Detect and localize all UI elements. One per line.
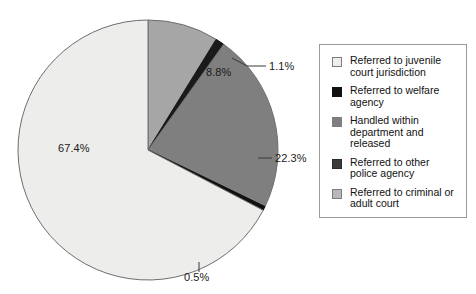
legend-item-label: Referred to juvenile court jurisdiction <box>350 55 458 78</box>
chart-legend: Referred to juvenile court jurisdiction … <box>319 44 467 218</box>
pie-label-67-4: 67.4% <box>58 142 90 154</box>
legend-item-label: Referred to welfare agency <box>350 85 458 108</box>
pie-label-8-8: 8.8% <box>206 66 231 78</box>
pie-slices <box>18 20 278 280</box>
chart-canvas: 8.8% 1.1% 22.3% 0.5% 67.4% Referred to j… <box>0 0 476 294</box>
pie-chart <box>0 0 300 294</box>
legend-item-label: Referred to criminal or adult court <box>350 187 458 210</box>
legend-swatch-icon <box>332 117 342 127</box>
legend-swatch-icon <box>332 87 342 97</box>
legend-item-label: Referred to other police agency <box>350 157 458 180</box>
pie-label-0-5: 0.5% <box>184 271 209 283</box>
legend-item-handled-within-department[interactable]: Handled within department and released <box>332 115 460 150</box>
legend-swatch-icon <box>332 189 342 199</box>
legend-item-referred-other-police-agency[interactable]: Referred to other police agency <box>332 157 460 180</box>
legend-item-referred-welfare-agency[interactable]: Referred to welfare agency <box>332 85 460 108</box>
legend-swatch-icon <box>332 57 342 67</box>
pie-label-22-3: 22.3% <box>275 152 307 164</box>
pie-label-1-1: 1.1% <box>269 60 294 72</box>
legend-item-label: Handled within department and released <box>350 115 458 150</box>
legend-items: Referred to juvenile court jurisdiction … <box>320 45 466 216</box>
legend-swatch-icon <box>332 159 342 169</box>
legend-item-referred-juvenile-court[interactable]: Referred to juvenile court jurisdiction <box>332 55 460 78</box>
legend-item-referred-criminal-adult-court[interactable]: Referred to criminal or adult court <box>332 187 460 210</box>
